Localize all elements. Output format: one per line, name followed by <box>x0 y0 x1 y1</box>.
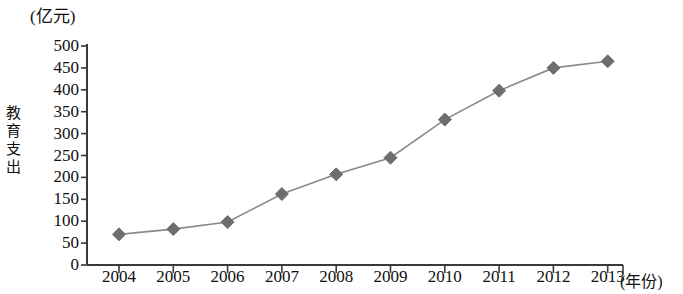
data-point-marker[interactable] <box>493 84 506 97</box>
chart-series <box>113 55 615 241</box>
chart-figure: (亿元) 教 育 支 出 (年份) 0501001502002503003504… <box>0 0 683 294</box>
data-point-marker[interactable] <box>221 216 234 229</box>
data-point-marker[interactable] <box>601 55 614 68</box>
data-point-marker[interactable] <box>438 113 451 126</box>
data-point-marker[interactable] <box>113 228 126 241</box>
data-point-marker[interactable] <box>167 223 180 236</box>
chart-plot-area <box>0 0 683 294</box>
chart-axes <box>81 44 623 273</box>
data-point-marker[interactable] <box>330 168 343 181</box>
data-point-marker[interactable] <box>547 61 560 74</box>
data-point-marker[interactable] <box>384 151 397 164</box>
data-line <box>119 61 608 234</box>
data-point-marker[interactable] <box>275 188 288 201</box>
